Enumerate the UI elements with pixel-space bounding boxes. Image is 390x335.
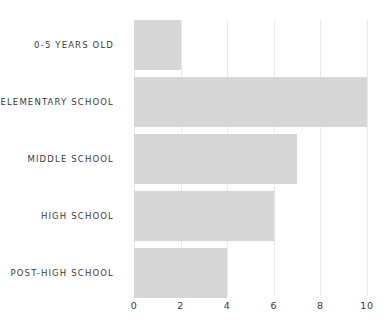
bar-row-post-high-school <box>134 248 227 298</box>
bar-row-high-school <box>134 191 274 241</box>
bar-high-school <box>134 191 274 241</box>
x-tick-label-2: 2 <box>177 300 184 311</box>
bar-middle-school <box>134 134 297 184</box>
gridline-10 <box>367 20 368 296</box>
bar-elementary-school <box>134 77 367 127</box>
x-tick-label-0: 0 <box>131 300 138 311</box>
x-tick-label-10: 10 <box>360 300 373 311</box>
category-label-0-5-years-old: 0-5 YEARS OLD <box>0 20 124 70</box>
bar-row-middle-school <box>134 134 297 184</box>
category-label-middle-school: MIDDLE SCHOOL <box>0 134 124 184</box>
plot-area <box>134 20 367 296</box>
category-label-high-school: HIGH SCHOOL <box>0 191 124 241</box>
bar-row-elementary-school <box>134 77 367 127</box>
x-tick-label-6: 6 <box>270 300 277 311</box>
x-tick-label-8: 8 <box>317 300 324 311</box>
bar-0-5-years-old <box>134 20 181 70</box>
category-label-elementary-school: ELEMENTARY SCHOOL <box>0 77 124 127</box>
category-label-post-high-school: POST-HIGH SCHOOL <box>0 248 124 298</box>
bar-chart: 0-5 YEARS OLD ELEMENTARY SCHOOL MIDDLE S… <box>0 0 390 335</box>
bar-row-0-5-years-old <box>134 20 181 70</box>
category-axis-labels: 0-5 YEARS OLD ELEMENTARY SCHOOL MIDDLE S… <box>0 20 124 296</box>
x-axis-tick-labels: 0 2 4 6 8 10 <box>0 300 390 320</box>
bar-post-high-school <box>134 248 227 298</box>
x-tick-label-4: 4 <box>224 300 231 311</box>
bar-series <box>134 20 367 296</box>
